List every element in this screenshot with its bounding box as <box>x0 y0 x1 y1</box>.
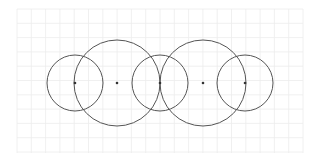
center-point-small-right <box>244 82 247 85</box>
center-point-large-right <box>202 82 205 85</box>
center-points-group <box>74 82 247 85</box>
geometry-canvas <box>0 0 319 164</box>
center-point-large-left <box>116 82 119 85</box>
center-point-small-left <box>74 82 77 85</box>
center-point-small-middle <box>159 82 162 85</box>
